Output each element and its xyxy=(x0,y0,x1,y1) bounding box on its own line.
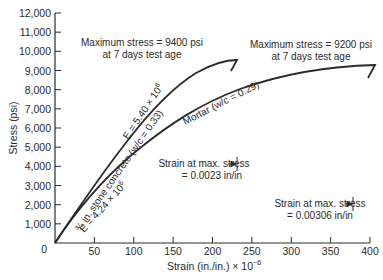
x-tick-label: 250 xyxy=(243,245,261,257)
y-tick-label: 6,000 xyxy=(25,122,51,134)
y-tick-label: 0 xyxy=(41,243,47,255)
mortar-strain-at-max-value: = 0.00306 in/in xyxy=(287,210,353,221)
concrete-curve-label: ¾ in. stone concrete (w/c = 0.33) xyxy=(73,108,165,233)
x-axis-title-base: Strain (in./in.) × 10 xyxy=(167,260,253,272)
x-tick-label: 400 xyxy=(361,245,379,257)
concrete-strain-at-max-value: = 0.0023 in/in xyxy=(182,170,242,181)
x-tick-label: 300 xyxy=(282,245,300,257)
y-tick-label: 9,000 xyxy=(25,65,51,77)
x-tick-label: 50 xyxy=(89,245,101,257)
y-tick-label: 10,000 xyxy=(19,45,51,57)
y-tick-label: 11,000 xyxy=(20,26,51,38)
stress-strain-chart: 01,0002,0003,0004,0005,0006,0007,0008,00… xyxy=(0,0,383,280)
y-axis-title: Stress (psi) xyxy=(7,101,19,154)
x-tick-label: 150 xyxy=(164,245,182,257)
x-axis-title-exponent: −6 xyxy=(253,259,261,266)
y-tick-label: 7,000 xyxy=(25,103,51,115)
y-tick-label: 12,000 xyxy=(19,7,51,19)
x-tick-label: 350 xyxy=(322,245,340,257)
mortar-max-stress-label: Maximum stress = 9200 psi xyxy=(250,39,372,50)
y-tick-label: 2,000 xyxy=(25,199,51,211)
y-tick-label: 1,000 xyxy=(25,218,51,230)
x-axis-ticks: 50100150200250300350400 xyxy=(89,237,379,257)
y-tick-label: 5,000 xyxy=(25,141,51,153)
concrete-test-age-label: at 7 days test age xyxy=(103,49,182,60)
x-tick-label: 100 xyxy=(125,245,143,257)
x-tick-label: 200 xyxy=(204,245,222,257)
y-tick-label: 4,000 xyxy=(25,160,51,172)
mortar-curve-label: Mortar (w/c = 0.29) xyxy=(181,79,261,127)
mortar-test-age-label: at 7 days test age xyxy=(272,51,351,62)
concrete-max-stress-label: Maximum stress = 9400 psi xyxy=(81,37,203,48)
x-axis-title: Strain (in./in.) × 10−6 xyxy=(167,259,261,272)
y-tick-label: 8,000 xyxy=(25,84,51,96)
y-tick-label: 3,000 xyxy=(25,180,51,192)
